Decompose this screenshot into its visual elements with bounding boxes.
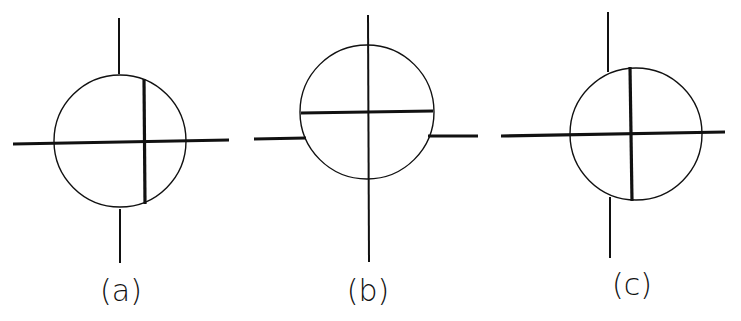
figure-canvas: (a) (b) (c) (0, 0, 741, 321)
panel-label: (b) (347, 273, 389, 308)
panel-a: (a) (13, 18, 229, 308)
thick-line (501, 132, 725, 136)
panel-label: (c) (612, 267, 652, 302)
thick-line (144, 79, 145, 204)
thick-line (13, 140, 229, 144)
panel-label: (a) (100, 273, 142, 308)
panel-c: (c) (501, 12, 725, 302)
thin-line (368, 15, 369, 262)
thick-line (254, 138, 306, 139)
thick-line (301, 111, 433, 113)
panel-b: (b) (254, 15, 478, 308)
thick-line (630, 67, 632, 201)
